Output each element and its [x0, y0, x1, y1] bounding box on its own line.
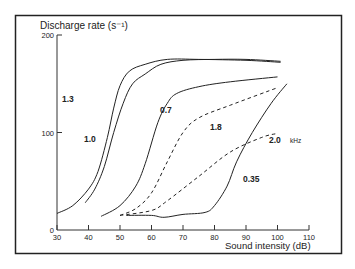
- x-tick-label: 30: [53, 233, 61, 242]
- x-tick-label: 50: [116, 233, 124, 242]
- x-tick-label: 110: [303, 233, 315, 242]
- curve-label: 2.0: [269, 135, 281, 145]
- chart: Discharge rate (s⁻¹) Sound intensity (dB…: [0, 0, 355, 269]
- x-axis-label: Sound intensity (dB): [225, 240, 311, 251]
- curve-1-8: [120, 88, 278, 216]
- curve-label: 1.8: [210, 122, 222, 132]
- x-tick-label: 60: [147, 233, 155, 242]
- x-tick-label: 100: [271, 233, 284, 242]
- y-axis-label: Discharge rate (s⁻¹): [40, 20, 128, 31]
- unit-label: kHz: [290, 137, 301, 144]
- curve-label: 0.7: [160, 105, 172, 115]
- curve-label: 0.35: [243, 174, 260, 184]
- y-tick-label: 200: [41, 31, 54, 40]
- x-tick-label: 80: [210, 233, 218, 242]
- x-tick-label: 40: [84, 233, 92, 242]
- y-tick-label: 0: [50, 226, 54, 235]
- curve-0-35: [126, 84, 287, 218]
- curve-label: 1.3: [62, 94, 74, 104]
- x-tick-label: 90: [242, 233, 250, 242]
- curve-0-7: [101, 77, 277, 216]
- x-tick-label: 70: [179, 233, 187, 242]
- chart-frame: [16, 16, 342, 254]
- y-tick-label: 100: [41, 129, 54, 138]
- curve-label: 1.0: [84, 134, 96, 144]
